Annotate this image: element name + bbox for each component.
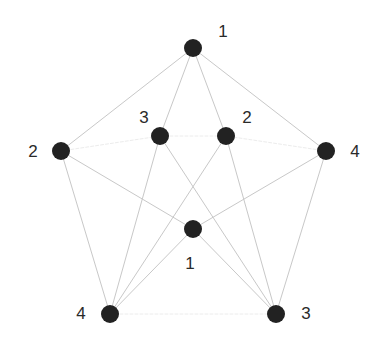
node-bottom-left — [101, 305, 119, 323]
graph-diagram — [0, 0, 380, 343]
node-label-inner-right: 2 — [242, 109, 251, 126]
node-inner-right — [217, 127, 235, 145]
node-right — [317, 142, 335, 160]
nodes-layer — [52, 39, 335, 323]
edge-inner-right-bottom-right — [226, 136, 276, 314]
node-left — [52, 142, 70, 160]
node-top — [184, 39, 202, 57]
edge-inner-left-bottom-left — [110, 136, 160, 314]
edge-inner-left-bottom-right — [160, 136, 276, 314]
node-label-bottom-left: 4 — [76, 305, 85, 322]
node-label-center: 1 — [185, 255, 194, 272]
node-bottom-right — [267, 305, 285, 323]
node-label-right: 4 — [350, 143, 359, 160]
node-label-bottom-right: 3 — [301, 305, 310, 322]
node-label-left: 2 — [28, 143, 37, 160]
node-center — [184, 220, 202, 238]
node-inner-left — [151, 127, 169, 145]
node-label-inner-left: 3 — [139, 109, 148, 126]
edges-layer — [61, 48, 326, 314]
edge-right-inner-right — [226, 136, 326, 151]
edge-inner-right-bottom-left — [110, 136, 226, 314]
node-label-top: 1 — [218, 23, 227, 40]
edge-left-inner-left — [61, 136, 160, 151]
